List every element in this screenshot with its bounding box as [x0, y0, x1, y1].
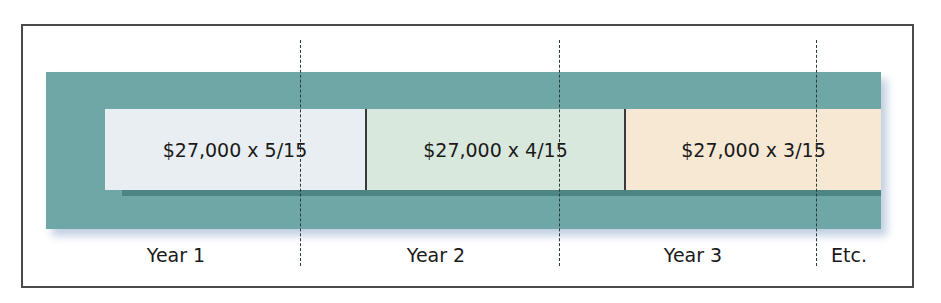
year-1-label: Year 1 — [147, 244, 205, 266]
segment-year-1: $27,000 x 5/15 — [105, 109, 365, 190]
segment-year-1-formula: $27,000 x 5/15 — [163, 139, 308, 161]
timeline-band-shadow-strip — [122, 190, 881, 196]
segment-year-2-formula: $27,000 x 4/15 — [423, 139, 568, 161]
year-divider-1 — [300, 40, 301, 266]
segment-year-3: $27,000 x 3/15 — [624, 109, 881, 190]
segment-year-2: $27,000 x 4/15 — [365, 109, 624, 190]
etc-label: Etc. — [831, 244, 867, 266]
year-divider-2 — [559, 40, 560, 266]
year-3-label: Year 3 — [664, 244, 722, 266]
segment-year-3-formula: $27,000 x 3/15 — [681, 139, 826, 161]
year-2-label: Year 2 — [407, 244, 465, 266]
year-divider-3 — [816, 40, 817, 266]
